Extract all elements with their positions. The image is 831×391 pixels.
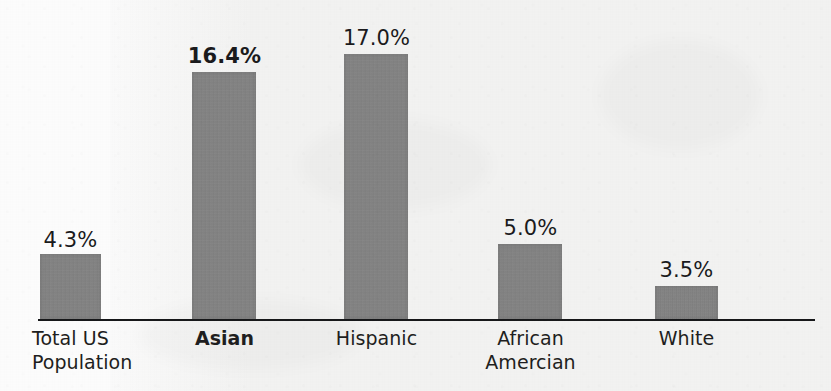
category-label-hispanic: Hispanic (316, 326, 437, 350)
value-label-african-amercian: 5.0% (470, 216, 591, 240)
bar-hispanic[interactable] (344, 54, 408, 319)
bar-white[interactable] (655, 286, 718, 319)
bar-african-amercian[interactable] (498, 244, 562, 319)
bar-total-us-population[interactable] (40, 254, 101, 319)
value-label-hispanic: 17.0% (316, 26, 437, 50)
value-label-asian: 16.4% (164, 44, 285, 68)
category-label-white: White (626, 326, 747, 350)
category-label-asian: Asian (164, 326, 285, 350)
value-label-total-us-population: 4.3% (10, 228, 131, 252)
bar-chart-figure: 4.3% 16.4% 17.0% 5.0% 3.5% Total US Popu… (0, 0, 831, 391)
category-label-african-amercian: African Amercian (470, 326, 591, 374)
bar-asian[interactable] (192, 72, 256, 319)
value-label-white: 3.5% (626, 258, 747, 282)
x-axis-baseline (38, 319, 815, 321)
plot-area: 4.3% 16.4% 17.0% 5.0% 3.5% Total US Popu… (0, 0, 831, 391)
